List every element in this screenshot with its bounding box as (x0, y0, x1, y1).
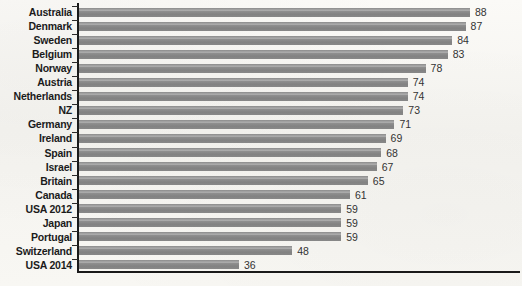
axis-tick (72, 203, 78, 204)
category-label: Israel (0, 160, 72, 174)
value-label: 36 (244, 258, 256, 272)
bar (79, 22, 466, 31)
value-label: 65 (373, 174, 385, 188)
axis-tick (72, 259, 78, 260)
category-label: Denmark (0, 19, 72, 33)
horizontal-bar-chart: Australia88Denmark87Sweden84Belgium83Nor… (0, 0, 522, 286)
value-label: 88 (475, 5, 487, 19)
value-label: 69 (391, 131, 403, 145)
axis-tick (72, 245, 78, 246)
value-label: 68 (386, 146, 398, 160)
bar (79, 176, 368, 185)
value-label: 87 (471, 19, 483, 33)
axis-tick (72, 175, 78, 176)
x-axis-baseline (77, 271, 520, 273)
category-label: Portugal (0, 230, 72, 244)
value-label: 74 (413, 75, 425, 89)
axis-tick (72, 132, 78, 133)
bar (79, 204, 341, 213)
bar (79, 50, 448, 59)
chart-page: Australia88Denmark87Sweden84Belgium83Nor… (0, 0, 522, 286)
axis-tick (72, 48, 78, 49)
bar (79, 148, 381, 157)
category-label: Austria (0, 75, 72, 89)
value-label: 73 (408, 103, 420, 117)
category-label: Switzerland (0, 244, 72, 258)
value-label: 61 (355, 188, 367, 202)
bar (79, 162, 377, 171)
category-label: Norway (0, 61, 72, 75)
bar (79, 36, 452, 45)
bar (79, 8, 470, 17)
category-label: Germany (0, 117, 72, 131)
category-label: NZ (0, 103, 72, 117)
category-label: Australia (0, 5, 72, 19)
value-label: 83 (453, 47, 465, 61)
value-label: 74 (413, 89, 425, 103)
category-label: Britain (0, 174, 72, 188)
value-label: 59 (346, 216, 358, 230)
axis-tick (72, 90, 78, 91)
value-label: 59 (346, 202, 358, 216)
bar (79, 64, 426, 73)
category-label: Spain (0, 146, 72, 160)
category-label: Sweden (0, 33, 72, 47)
bar (79, 232, 341, 241)
category-label: USA 2014 (0, 258, 72, 272)
axis-tick (72, 147, 78, 148)
category-label: Canada (0, 188, 72, 202)
category-label: USA 2012 (0, 202, 72, 216)
bar (79, 78, 408, 87)
bar (79, 218, 341, 227)
chart-footnote (86, 278, 516, 286)
bar (79, 190, 350, 199)
axis-tick (72, 161, 78, 162)
category-label: Japan (0, 216, 72, 230)
value-label: 71 (399, 117, 411, 131)
bar (79, 120, 394, 129)
axis-tick (72, 217, 78, 218)
bar (79, 106, 403, 115)
bar (79, 92, 408, 101)
bar (79, 246, 292, 255)
axis-tick (72, 20, 78, 21)
value-label: 67 (382, 160, 394, 174)
category-label: Belgium (0, 47, 72, 61)
value-label: 48 (297, 244, 309, 258)
axis-tick (72, 104, 78, 105)
axis-tick (72, 231, 78, 232)
axis-tick (72, 76, 78, 77)
axis-tick (72, 62, 78, 63)
category-label: Netherlands (0, 89, 72, 103)
axis-tick (72, 34, 78, 35)
axis-tick (72, 118, 78, 119)
value-label: 59 (346, 230, 358, 244)
value-label: 84 (457, 33, 469, 47)
category-label: Ireland (0, 131, 72, 145)
value-label: 78 (431, 61, 443, 75)
axis-tick (72, 6, 78, 7)
axis-tick (72, 189, 78, 190)
bar (79, 134, 386, 143)
bar (79, 260, 239, 269)
